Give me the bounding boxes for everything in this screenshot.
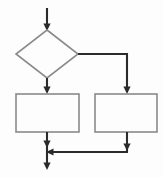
connector-decision-to-left: [43, 78, 50, 94]
right-to-merge-arrow-head-icon: [123, 144, 130, 152]
connector-entry-arrow: [43, 8, 50, 31]
left-to-merge-arrow-head-icon: [43, 141, 50, 149]
decision-diamond-shape: [16, 30, 78, 78]
flowchart-canvas: [0, 0, 163, 177]
connector-merge-bar: [46, 149, 128, 156]
node-process-right[interactable]: [95, 94, 157, 132]
node-process-left[interactable]: [16, 94, 79, 132]
node-decision[interactable]: [16, 30, 78, 78]
process-right-rect-shape: [95, 94, 157, 132]
exit-arrow-head-icon: [43, 163, 50, 171]
connector-decision-to-right: [78, 54, 131, 94]
connector-left-to-merge: [43, 132, 50, 152]
process-left-rect-shape: [16, 94, 79, 132]
decision-to-right-arrow-head-icon: [123, 87, 130, 95]
flowchart-diagram: [0, 0, 163, 177]
decision-to-left-arrow-head-icon: [43, 87, 50, 95]
connector-right-to-merge: [123, 132, 130, 152]
decision-to-right-line: [78, 54, 127, 91]
connector-exit-arrow: [43, 152, 50, 170]
